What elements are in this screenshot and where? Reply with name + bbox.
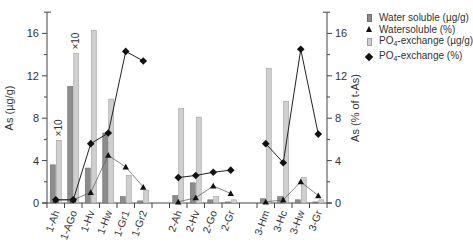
triangle-marker-icon — [364, 24, 374, 35]
legend-label: Watersoluble (%) — [379, 24, 455, 36]
x-tick-label: 3-Hw — [287, 208, 307, 236]
x-tick-label: 3-Hm — [252, 208, 272, 236]
bar-po4-exchange — [126, 175, 131, 203]
diamond-marker-icon — [314, 130, 322, 138]
legend-item-po4-exchange-pct: PO4-exchange (%) — [364, 50, 473, 65]
legend-label: PO4-exchange (µg/g) — [379, 35, 473, 50]
dark-bar-swatch-icon — [364, 12, 374, 23]
y-tick-label-left: 12 — [27, 70, 39, 82]
x-tick-label: 1-Ah — [43, 208, 62, 233]
annotation-x10: ×10 — [53, 119, 64, 136]
bar-po4-exchange — [196, 117, 201, 203]
legend-item-po4-exchange-ugg: PO4-exchange (µg/g) — [364, 35, 473, 50]
legend-item-water-soluble-ugg: Water soluble (µg/g) — [364, 12, 473, 24]
triangle-marker-icon — [315, 192, 321, 198]
triangle-marker-icon — [123, 164, 129, 170]
bar-po4-exchange — [109, 99, 114, 203]
triangle-marker-icon — [228, 190, 234, 196]
y-tick-label-left: 4 — [33, 155, 39, 167]
y-tick-label-right: 16 — [335, 27, 347, 39]
bar-po4-exchange — [266, 68, 271, 203]
annotation-x10: ×10 — [70, 32, 81, 49]
diamond-marker-icon — [209, 168, 217, 176]
x-tick-label: 2-Ah — [165, 208, 184, 233]
bar-water-soluble — [138, 201, 143, 203]
y-tick-label-left: 0 — [33, 197, 39, 209]
legend-item-water-soluble-pct: Watersoluble (%) — [364, 24, 473, 36]
triangle-marker-icon — [210, 183, 216, 189]
legend-label: Water soluble (µg/g) — [379, 12, 469, 24]
chart-legend: Water soluble (µg/g) Watersoluble (%) PO… — [364, 12, 473, 64]
x-tick-label: 2-Go — [200, 208, 219, 234]
diamond-marker-icon — [297, 46, 305, 54]
y-tick-label-right: 4 — [335, 155, 341, 167]
bar-po4-exchange — [91, 30, 96, 203]
bar-water-soluble — [225, 202, 230, 203]
light-bar-swatch-icon — [364, 37, 374, 48]
x-tick-label: 1-Hv — [78, 208, 97, 234]
y-tick-label-left: 8 — [33, 112, 39, 124]
bar-po4-exchange — [319, 200, 324, 203]
diamond-marker-icon — [227, 166, 235, 174]
bar-water-soluble — [103, 133, 108, 203]
x-tick-label: 3-Hc — [270, 209, 289, 234]
bar-po4-exchange — [179, 109, 184, 203]
x-tick-label: 3-Gr — [306, 208, 325, 232]
y-axis-title-left: As (µg/g) — [3, 86, 15, 131]
bar-water-soluble — [85, 168, 90, 203]
x-tick-label: 2-Hv — [183, 208, 202, 234]
diamond-marker-icon — [139, 57, 147, 65]
bar-water-soluble — [68, 86, 73, 203]
x-tick-label: 1-Gr2 — [129, 208, 150, 237]
bar-water-soluble — [313, 202, 318, 203]
bar-po4-exchange — [231, 200, 236, 203]
bar-series — [50, 30, 324, 203]
bar-water-soluble — [295, 200, 300, 203]
diamond-marker-icon — [364, 51, 374, 62]
bar-water-soluble — [208, 200, 213, 203]
bar-po4-exchange — [214, 197, 219, 203]
y-tick-label-right: 8 — [335, 112, 341, 124]
legend-label: PO4-exchange (%) — [379, 50, 462, 65]
bar-po4-exchange — [144, 190, 149, 203]
bar-po4-exchange — [74, 54, 79, 203]
bar-water-soluble — [120, 197, 125, 203]
bar-po4-exchange — [56, 140, 61, 203]
y-axis-title-right: As (% of t-As) — [349, 74, 361, 142]
y-tick-label-right: 12 — [335, 70, 347, 82]
x-tick-label: 2-Gr — [218, 208, 237, 232]
y-tick-label-right: 0 — [335, 197, 341, 209]
y-tick-label-left: 16 — [27, 27, 39, 39]
diamond-marker-icon — [122, 48, 130, 56]
